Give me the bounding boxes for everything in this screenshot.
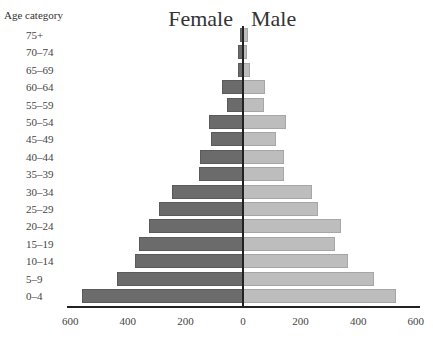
- male-bar: [243, 132, 276, 146]
- male-bar: [243, 98, 264, 112]
- age-category-label: 45–49: [26, 132, 54, 146]
- age-category-label: 25–29: [26, 202, 54, 216]
- x-tick-label: 600: [396, 315, 433, 327]
- female-bar: [149, 219, 243, 233]
- x-tick-label: 200: [281, 315, 321, 327]
- age-category-label: 30–34: [26, 185, 54, 199]
- male-bar: [243, 80, 265, 94]
- age-category-label: 20–24: [26, 219, 54, 233]
- age-category-label: 15–19: [26, 237, 54, 251]
- x-tick-label: 400: [338, 315, 378, 327]
- male-title: Male: [251, 6, 296, 32]
- age-category-label: 5–9: [26, 272, 43, 286]
- male-bar: [243, 185, 312, 199]
- x-axis: [67, 306, 420, 308]
- age-category-label: 55–59: [26, 98, 54, 112]
- female-bar: [172, 185, 243, 199]
- age-category-label: 75+: [26, 28, 43, 42]
- age-category-label: 50–54: [26, 115, 54, 129]
- female-bar: [117, 272, 243, 286]
- male-bar: [243, 63, 250, 77]
- male-bar: [243, 115, 286, 129]
- male-bar: [243, 167, 284, 181]
- x-tick-label: 0: [223, 315, 263, 327]
- age-category-label: 60–64: [26, 80, 54, 94]
- age-category-label: 35–39: [26, 167, 54, 181]
- female-bar: [159, 202, 243, 216]
- female-bar: [82, 289, 243, 303]
- x-tick-label: 400: [108, 315, 148, 327]
- male-bar: [243, 219, 341, 233]
- x-tick-label: 200: [165, 315, 205, 327]
- male-bar: [243, 150, 284, 164]
- male-bar: [243, 237, 335, 251]
- age-category-label: 10–14: [26, 254, 54, 268]
- male-bar: [243, 202, 318, 216]
- age-category-label: 65–69: [26, 63, 54, 77]
- female-bar: [200, 150, 243, 164]
- age-category-label: 40–44: [26, 150, 54, 164]
- age-category-label: 0–4: [26, 289, 43, 303]
- female-bar: [211, 132, 243, 146]
- female-bar: [139, 237, 243, 251]
- age-category-label: 70–74: [26, 45, 54, 59]
- x-tick-label: 600: [50, 315, 90, 327]
- male-bar: [243, 289, 396, 303]
- zero-line: [242, 26, 244, 307]
- female-bar: [209, 115, 243, 129]
- female-bar: [135, 254, 243, 268]
- male-bar: [243, 272, 374, 286]
- female-bar: [222, 80, 243, 94]
- female-bar: [227, 98, 243, 112]
- female-title: Female: [168, 6, 233, 32]
- y-axis-title: Age category: [4, 9, 63, 21]
- male-bar: [243, 254, 348, 268]
- female-bar: [199, 167, 243, 181]
